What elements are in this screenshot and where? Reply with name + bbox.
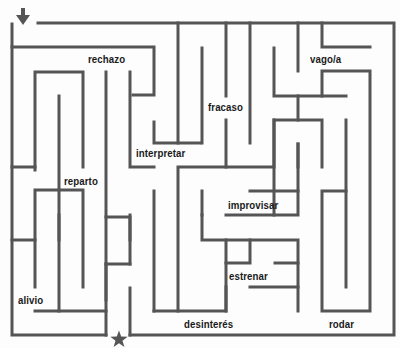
- word-vago: vago/a: [310, 53, 341, 65]
- finish-star-icon: [110, 330, 128, 348]
- word-fracaso: fracaso: [208, 101, 243, 113]
- word-rodar: rodar: [329, 318, 354, 330]
- word-alivio: alivio: [18, 294, 43, 306]
- word-rechazo: rechazo: [88, 53, 125, 65]
- word-improvisar: improvisar: [228, 199, 278, 211]
- start-arrow-icon: [14, 8, 32, 26]
- word-interpretar: interpretar: [136, 147, 185, 159]
- word-desinteres: desinterés: [184, 318, 233, 330]
- word-estrenar: estrenar: [229, 270, 268, 282]
- word-reparto: reparto: [64, 175, 98, 187]
